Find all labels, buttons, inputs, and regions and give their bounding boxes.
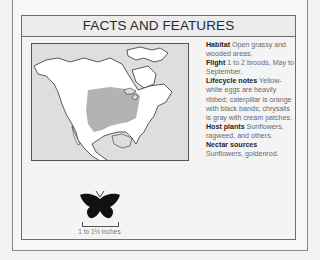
size-label: 1 to 1½ inches [62, 228, 137, 235]
fact-lifecycle: Lifecycle notes Yellow-white eggs are he… [206, 77, 296, 122]
fact-flight: Flight 1 to 2 broods, May to September. [206, 59, 296, 77]
north-america-map-icon [32, 44, 189, 161]
fact-habitat: Habitat Open grassy and wooded areas. [206, 41, 296, 59]
size-scale-bar [82, 222, 119, 227]
fact-nectar-sources: Nectar sources Sunflowers, goldenrod. [206, 141, 296, 159]
fact-host-plants: Host plants Sunflowers, ragweed, and oth… [206, 123, 296, 141]
range-map [31, 43, 189, 161]
facts-and-features-panel: FACTS AND FEATURES Habitat Open grassy a… [21, 15, 296, 240]
facts-list: Habitat Open grassy and wooded areas. Fl… [206, 41, 296, 159]
panel-title: FACTS AND FEATURES [22, 16, 295, 37]
butterfly-silhouette-icon [78, 191, 122, 221]
